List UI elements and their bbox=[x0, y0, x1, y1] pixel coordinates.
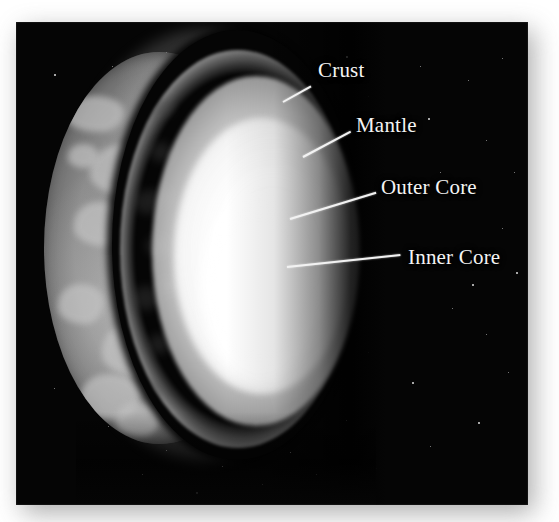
label-inner-core: Inner Core bbox=[408, 247, 500, 268]
leader-line-inner-core bbox=[287, 254, 401, 268]
callout-layer: Crust Mantle Outer Core Inner Core bbox=[0, 0, 559, 522]
label-mantle: Mantle bbox=[356, 115, 417, 136]
leader-line-crust bbox=[283, 86, 312, 103]
label-outer-core: Outer Core bbox=[381, 177, 477, 198]
label-crust: Crust bbox=[318, 60, 365, 81]
leader-line-outer-core bbox=[290, 192, 377, 220]
leader-line-mantle bbox=[303, 131, 352, 158]
figure-canvas: Crust Mantle Outer Core Inner Core bbox=[0, 0, 559, 522]
